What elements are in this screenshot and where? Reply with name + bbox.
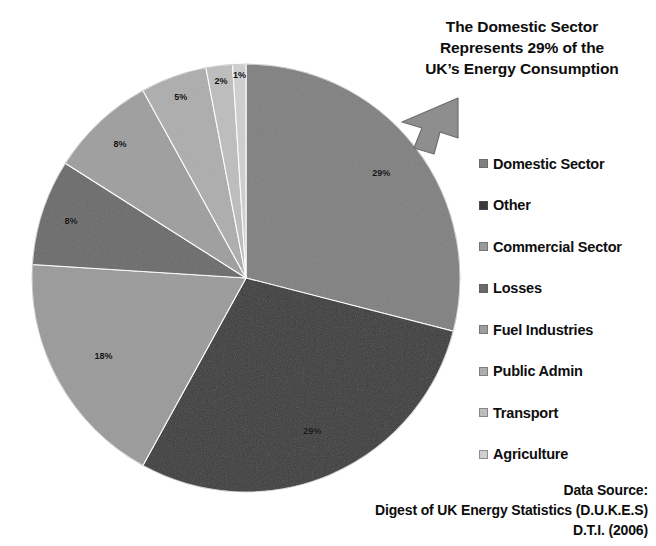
chart-legend: Domestic SectorOtherCommercial SectorLos… [479,143,654,475]
legend-swatch-icon [479,242,488,251]
data-source-line-3: D.T.I. (2006) [375,520,648,540]
legend-item[interactable]: Fuel Industries [479,309,654,351]
legend-item-label: Domestic Sector [493,156,604,172]
legend-item-label: Public Admin [493,363,583,379]
legend-item-label: Losses [493,280,542,296]
legend-item[interactable]: Public Admin [479,351,654,393]
pie-slice-label: 8% [113,139,126,149]
pie-slice-label: 2% [215,76,228,86]
legend-item[interactable]: Transport [479,392,654,434]
pie-slice-label: 1% [233,70,246,80]
legend-swatch-icon [479,450,488,459]
legend-item-label: Agriculture [493,446,568,462]
legend-item-label: Commercial Sector [493,239,622,255]
legend-item[interactable]: Domestic Sector [479,143,654,185]
legend-swatch-icon [479,284,488,293]
legend-item[interactable]: Agriculture [479,434,654,476]
pie-slice-group [32,64,460,492]
data-source-line-2: Digest of UK Energy Statistics (D.U.K.E.… [375,500,648,520]
pie-chart: 29%29%18%8%8%5%2%1% [31,63,461,493]
legend-item-label: Transport [493,405,558,421]
chart-canvas: The Domestic Sector Represents 29% of th… [0,0,656,546]
legend-swatch-icon [479,367,488,376]
chart-title-line-1: The Domestic Sector [396,16,648,37]
pie-slice-label: 5% [174,92,187,102]
pie-chart-svg [31,63,461,493]
pie-slice-label: 29% [303,426,321,436]
pie-slice-label: 29% [372,168,390,178]
legend-swatch-icon [479,201,488,210]
legend-item[interactable]: Commercial Sector [479,226,654,268]
data-source: Data Source: Digest of UK Energy Statist… [375,480,648,540]
chart-title-line-2: Represents 29% of the [396,37,648,58]
legend-item[interactable]: Losses [479,268,654,310]
legend-item-label: Other [493,197,531,213]
legend-swatch-icon [479,159,488,168]
legend-item[interactable]: Other [479,185,654,227]
legend-item-label: Fuel Industries [493,322,593,338]
pie-slice-label: 8% [64,216,77,226]
data-source-line-1: Data Source: [375,480,648,500]
legend-swatch-icon [479,408,488,417]
pie-slice-label: 18% [94,351,112,361]
legend-swatch-icon [479,325,488,334]
